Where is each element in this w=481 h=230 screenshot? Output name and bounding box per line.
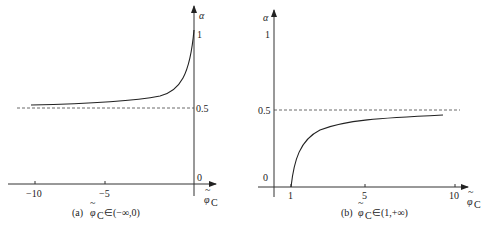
caption-a: (a) ~ φ C ∈(−∞,0) [72,197,140,221]
svg-text:∈(1,+∞): ∈(1,+∞) [372,207,408,219]
figure: −10 −5 1 0.5 0 α ~ φ C (a) ~ φ C ∈(−∞,0)… [0,0,481,230]
ytick-label-1: 1 [265,29,270,40]
tick-label-10: 10 [449,190,459,201]
svg-text:C: C [474,199,481,210]
tick-label-1: 1 [288,190,293,201]
svg-text:C: C [365,210,372,221]
svg-text:C: C [97,210,104,221]
ytick-label-0: 0 [263,172,268,183]
svg-text:(a): (a) [72,207,83,219]
chart-a: −10 −5 1 0.5 0 α ~ φ C (a) ~ φ C ∈(−∞,0) [8,6,218,221]
tick-label-m10: −10 [26,188,42,199]
svg-text:(b): (b) [341,207,353,219]
tick-label-m5: −5 [99,188,110,199]
ytick-label-1: 1 [197,29,202,40]
y-axis-label-alpha: α [263,12,269,23]
svg-text:∈(−∞,0): ∈(−∞,0) [104,207,140,219]
svg-text:φ: φ [467,196,473,207]
y-axis-label-alpha: α [199,10,205,21]
ytick-label-0: 0 [197,172,202,183]
curve-a [31,30,194,105]
curve-b [291,115,443,187]
svg-text:φ: φ [358,207,364,218]
chart-b: 1 5 10 1 0.5 0 α ~ φ C (b) ~ φ C ∈(1,+∞) [258,10,481,221]
x-axis-label-phi: ~ φ C [467,186,481,210]
svg-text:φ: φ [204,194,210,205]
caption-b: (b) ~ φ C ∈(1,+∞) [341,197,408,221]
svg-text:C: C [211,197,218,208]
x-axis-label-phi: ~ φ C [204,184,218,208]
ytick-label-05: 0.5 [196,103,209,114]
ytick-label-05: 0.5 [258,105,271,116]
svg-text:φ: φ [90,207,96,218]
